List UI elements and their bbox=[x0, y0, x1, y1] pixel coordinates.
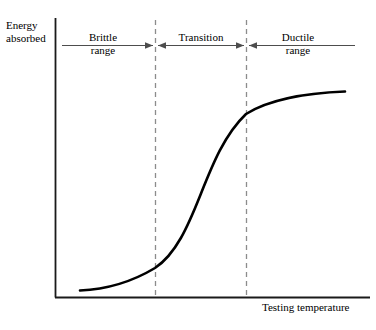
transition-range-label: Transition bbox=[168, 31, 234, 44]
ductile-range-label: Ductile range bbox=[268, 31, 328, 57]
energy-absorption-curve bbox=[80, 92, 345, 291]
transition-range-label-line1: Transition bbox=[168, 31, 234, 44]
ductile-range-label-line2: range bbox=[268, 44, 328, 57]
brittle-range-label-line2: range bbox=[73, 44, 133, 57]
ductile-range-label-line1: Ductile bbox=[268, 31, 328, 44]
brittle-range-label-line1: Brittle bbox=[73, 31, 133, 44]
impact-energy-chart: Energy absorbed Testing temperature Brit… bbox=[0, 0, 376, 330]
brittle-range-label: Brittle range bbox=[73, 31, 133, 57]
